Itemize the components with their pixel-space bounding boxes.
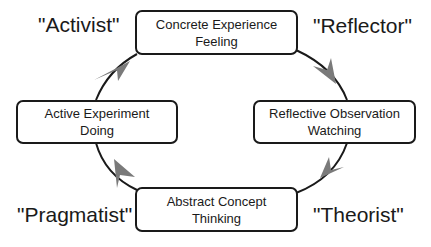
stage-concrete-experience: Concrete Experience Feeling (135, 10, 298, 55)
connector-reflective-to-abstract (296, 143, 347, 193)
stage-title: Abstract Concept (167, 193, 267, 210)
label-activist: "Activist" (38, 13, 119, 37)
arrow-head-icon (94, 61, 130, 81)
stage-reflective-observation: Reflective Observation Watching (253, 100, 416, 144)
connector-concrete-to-reflective (296, 50, 347, 100)
stage-title: Concrete Experience (156, 16, 277, 33)
label-pragmatist: "Pragmatist" (17, 203, 132, 227)
connector-active-to-concrete (96, 54, 137, 100)
label-reflector: "Reflector" (313, 14, 412, 38)
stage-subtitle: Watching (308, 122, 362, 139)
label-theorist: "Theorist" (313, 203, 404, 227)
stage-abstract-concept: Abstract Concept Thinking (135, 187, 298, 232)
stage-subtitle: Doing (80, 122, 114, 139)
stage-subtitle: Thinking (192, 210, 241, 227)
arrow-head-icon (320, 157, 344, 178)
stage-subtitle: Feeling (195, 33, 238, 50)
stage-title: Active Experiment (45, 105, 150, 122)
stage-title: Reflective Observation (269, 105, 400, 122)
stage-active-experiment: Active Experiment Doing (16, 100, 178, 144)
